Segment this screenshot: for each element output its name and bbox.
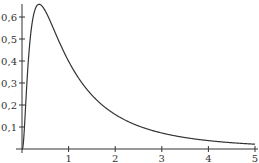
y-tick-label: 0,2 — [1, 100, 17, 111]
y-tick-label: 0,1 — [1, 122, 17, 133]
y-tick-label: 0,3 — [1, 78, 17, 89]
y-tick-label: 0,6 — [1, 12, 17, 23]
x-tick-label: 5 — [252, 153, 258, 163]
y-tick-label: 0,5 — [1, 34, 17, 45]
density-curve — [22, 4, 255, 149]
x-tick-label: 2 — [112, 153, 118, 163]
y-tick-label: 0,4 — [1, 56, 17, 67]
y-axis-ticks: 0,10,20,30,40,50,6 — [1, 12, 25, 133]
chart: 0,10,20,30,40,50,6 12345 — [0, 0, 259, 163]
chart-svg: 0,10,20,30,40,50,6 12345 — [0, 0, 259, 163]
x-tick-label: 4 — [205, 153, 211, 163]
x-tick-label: 1 — [65, 153, 71, 163]
x-tick-label: 3 — [159, 153, 165, 163]
